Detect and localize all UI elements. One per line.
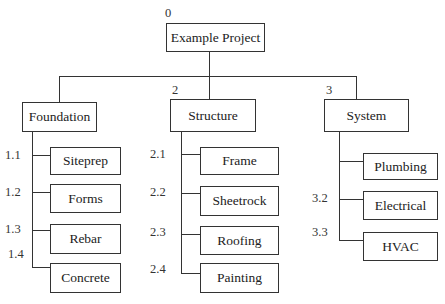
foundation-label: Foundation bbox=[29, 109, 91, 125]
system-spine-line bbox=[339, 132, 340, 240]
structure-number: 2 bbox=[172, 84, 178, 97]
forms-connector bbox=[32, 192, 50, 193]
hvac-number: 3.3 bbox=[312, 226, 328, 239]
concrete-connector bbox=[32, 267, 50, 268]
painting-label: Painting bbox=[217, 270, 262, 286]
siteprep-label: Siteprep bbox=[63, 153, 108, 169]
painting-number: 2.4 bbox=[150, 263, 166, 276]
electrical-number: 3.2 bbox=[312, 192, 328, 205]
node-siteprep: Siteprep bbox=[50, 147, 121, 175]
node-sheetrock: Sheetrock bbox=[200, 186, 279, 216]
rebar-label: Rebar bbox=[69, 231, 101, 247]
plumbing-connector bbox=[339, 161, 363, 162]
root-label: Example Project bbox=[171, 30, 261, 46]
concrete-number: 1.4 bbox=[8, 248, 24, 261]
plumbing-label: Plumbing bbox=[374, 159, 427, 175]
node-foundation: Foundation bbox=[22, 102, 97, 132]
node-concrete: Concrete bbox=[50, 263, 121, 293]
foundation-drop-line bbox=[59, 76, 60, 102]
node-hvac: HVAC bbox=[363, 232, 438, 261]
roofing-number: 2.3 bbox=[150, 226, 166, 239]
level1-bus-line bbox=[59, 76, 357, 77]
frame-number: 2.1 bbox=[150, 148, 166, 161]
node-frame: Frame bbox=[200, 147, 279, 175]
node-system: System bbox=[324, 99, 409, 132]
electrical-label: Electrical bbox=[375, 198, 427, 214]
frame-connector bbox=[181, 154, 200, 155]
node-plumbing: Plumbing bbox=[363, 153, 438, 180]
rebar-connector bbox=[32, 230, 50, 231]
node-electrical: Electrical bbox=[363, 191, 438, 220]
node-rebar: Rebar bbox=[50, 224, 121, 254]
siteprep-number: 1.1 bbox=[5, 149, 21, 162]
root-number: 0 bbox=[165, 7, 171, 20]
forms-label: Forms bbox=[68, 191, 103, 207]
node-painting: Painting bbox=[200, 263, 279, 293]
node-structure: Structure bbox=[170, 99, 256, 132]
system-number: 3 bbox=[326, 84, 332, 97]
forms-number: 1.2 bbox=[5, 186, 21, 199]
electrical-connector bbox=[339, 199, 363, 200]
hvac-label: HVAC bbox=[382, 239, 419, 255]
system-label: System bbox=[347, 108, 387, 124]
node-roofing: Roofing bbox=[200, 226, 279, 255]
roofing-connector bbox=[181, 234, 200, 235]
hvac-connector bbox=[339, 240, 363, 241]
system-drop-line bbox=[356, 76, 357, 99]
node-forms: Forms bbox=[50, 184, 121, 213]
sheetrock-number: 2.2 bbox=[150, 186, 166, 199]
sheetrock-label: Sheetrock bbox=[213, 193, 267, 209]
frame-label: Frame bbox=[222, 153, 257, 169]
sheetrock-connector bbox=[181, 193, 200, 194]
structure-label: Structure bbox=[188, 108, 238, 124]
painting-connector bbox=[181, 273, 200, 274]
root-node: Example Project bbox=[166, 23, 265, 52]
roofing-label: Roofing bbox=[217, 233, 261, 249]
rebar-number: 1.3 bbox=[5, 223, 21, 236]
foundation-spine-line bbox=[32, 132, 33, 268]
siteprep-connector bbox=[32, 155, 50, 156]
concrete-label: Concrete bbox=[61, 270, 110, 286]
